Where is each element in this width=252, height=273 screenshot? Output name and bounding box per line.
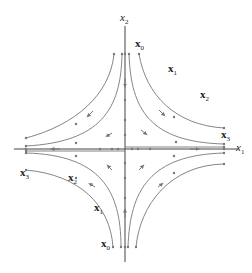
- label-bot-x1: x1: [94, 202, 103, 216]
- label-top-x3: x3: [221, 129, 230, 143]
- x1-axis-label: x1: [236, 142, 244, 156]
- phase-portrait-diagram: [0, 0, 252, 273]
- label-top-x1: x1: [168, 63, 177, 77]
- trajectory-tr-outer: [139, 54, 224, 128]
- trajectory-bl-inner: [26, 153, 121, 247]
- label-bot-x0: x0: [101, 238, 110, 252]
- label-bot-x3: x3: [20, 167, 29, 181]
- label-top-x2: x2: [200, 89, 209, 103]
- trajectory-tl-outer: [26, 54, 114, 138]
- trajectory-br-outer: [136, 164, 224, 247]
- label-bot-x2: x2: [68, 172, 77, 186]
- label-top-x0: x0: [135, 38, 144, 52]
- x2-axis-label: x2: [120, 12, 128, 26]
- trajectory-tl-inner: [26, 54, 122, 146]
